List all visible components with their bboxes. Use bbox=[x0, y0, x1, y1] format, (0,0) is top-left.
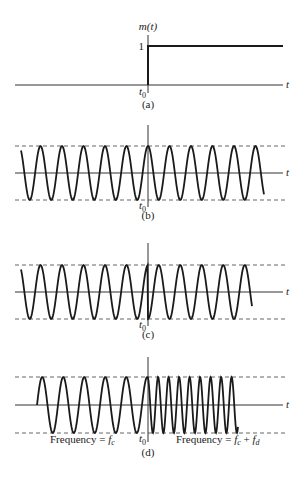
time-axis-label: t bbox=[286, 285, 290, 297]
level-label: 1 bbox=[139, 40, 145, 52]
time-axis-label: t bbox=[286, 166, 290, 178]
time-axis-label: t bbox=[286, 398, 290, 410]
signal-label: m(t) bbox=[139, 20, 158, 33]
panel-caption: (a) bbox=[142, 98, 155, 111]
panel-a-step-function: m(t) 1 t t0 (a) bbox=[15, 20, 290, 111]
frequency-label-before: Frequency = fc bbox=[50, 433, 115, 447]
panel-d-frequency-shift: t t0 Frequency = fc Frequency = fc + fd … bbox=[15, 357, 290, 459]
panel-c-phase-shift: t t0 (c) bbox=[15, 243, 290, 341]
modulation-figure: m(t) 1 t t0 (a) t t0 (b) t t0 (c) t t0 F… bbox=[0, 0, 307, 478]
panel-caption: (b) bbox=[142, 209, 155, 222]
t0-label: t0 bbox=[139, 432, 146, 447]
panel-b-carrier: t t0 (b) bbox=[15, 125, 290, 222]
panel-caption: (c) bbox=[142, 328, 155, 341]
time-axis-label: t bbox=[286, 78, 290, 90]
panel-caption: (d) bbox=[142, 446, 155, 459]
frequency-label-after: Frequency = fc + fd bbox=[176, 433, 261, 447]
step-signal bbox=[148, 46, 283, 85]
